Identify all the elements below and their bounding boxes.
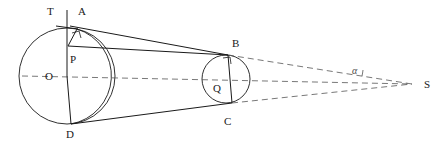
tangent-lower-D-C <box>71 103 232 124</box>
circle-Q <box>202 55 250 103</box>
angle-alpha-arc-icon <box>362 70 363 76</box>
point-label-A: A <box>78 6 86 17</box>
point-label-D: D <box>66 129 74 140</box>
right-angle-at-B-icon <box>223 57 231 64</box>
point-label-C: C <box>224 116 231 127</box>
segment-O-D <box>67 76 71 124</box>
point-label-Q: Q <box>213 83 221 94</box>
point-label-P: P <box>70 54 76 65</box>
point-label-S: S <box>424 79 430 90</box>
geometry-figure: T A P O D B Q C S α <box>0 0 441 146</box>
point-label-T: T <box>47 6 54 17</box>
angle-label-alpha: α <box>352 66 357 76</box>
chord-B-C <box>228 55 232 103</box>
point-label-O: O <box>45 71 53 82</box>
tangent-lower-C-S <box>232 84 412 103</box>
tangent-upper-B-S <box>228 55 412 84</box>
arc-A-to-D <box>71 29 111 124</box>
geometry-canvas <box>0 0 441 146</box>
point-label-B: B <box>232 38 239 49</box>
